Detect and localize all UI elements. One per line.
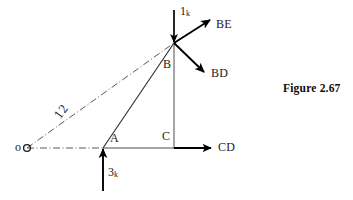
- force-label-cd: CD: [218, 141, 235, 153]
- point-label-a: A: [110, 132, 119, 144]
- force-label-3k: 3k: [108, 166, 118, 178]
- point-label-o: o: [15, 141, 21, 153]
- free-body-diagram: [0, 0, 353, 200]
- force-arrow-be: [174, 20, 210, 43]
- figure-container: o A B C 12 1k 3k BE BD CD Figure 2.67: [0, 0, 353, 200]
- point-label-c: C: [162, 130, 170, 142]
- figure-caption: Figure 2.67: [283, 82, 341, 94]
- force-3k-unit: k: [114, 170, 118, 179]
- force-label-1k: 1k: [180, 5, 190, 17]
- point-label-b: B: [163, 58, 171, 70]
- force-arrow-bd: [174, 43, 204, 72]
- force-label-bd: BD: [211, 67, 228, 79]
- dimension-line-12: [27, 43, 174, 148]
- force-1k-unit: k: [186, 9, 190, 18]
- force-label-be: BE: [216, 18, 232, 30]
